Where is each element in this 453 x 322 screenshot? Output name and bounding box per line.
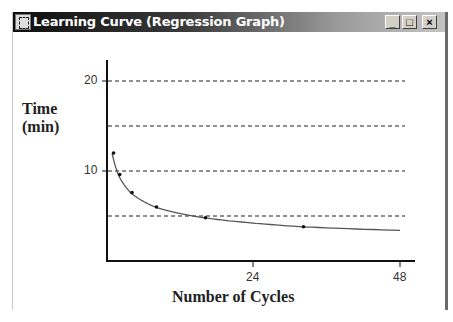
y-tick-label: 10	[84, 163, 97, 177]
y-axis-label: Time (min)	[22, 100, 59, 136]
x-axis-label: Number of Cycles	[172, 288, 294, 306]
data-point	[204, 216, 208, 220]
x-tick-label: 48	[393, 270, 406, 284]
data-point	[112, 151, 116, 155]
learning-curve-chart	[0, 0, 453, 322]
gridlines	[108, 81, 405, 216]
x-tick-label: 24	[246, 270, 259, 284]
data-point	[155, 205, 159, 209]
y-tick-label: 20	[84, 73, 97, 87]
data-point	[302, 225, 306, 229]
y-axis-label-line2: (min)	[22, 118, 59, 136]
data-point	[118, 173, 122, 177]
data-points	[112, 151, 305, 228]
data-point	[130, 191, 134, 195]
y-axis-label-line1: Time	[22, 100, 59, 118]
regression-curve	[112, 153, 400, 230]
